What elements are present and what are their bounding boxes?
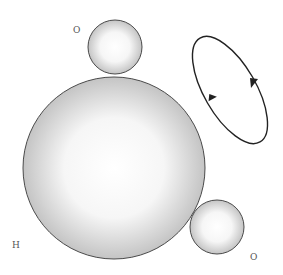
diagram-canvas: O H O — [0, 0, 283, 275]
arrowhead-up-icon — [207, 93, 217, 101]
label-top-atom: O — [73, 25, 80, 35]
label-big-atom: H — [12, 240, 20, 250]
label-bottom-atom: O — [250, 252, 257, 262]
bottom-small-sphere — [190, 200, 244, 254]
large-sphere — [23, 77, 205, 259]
top-small-sphere — [88, 20, 142, 74]
